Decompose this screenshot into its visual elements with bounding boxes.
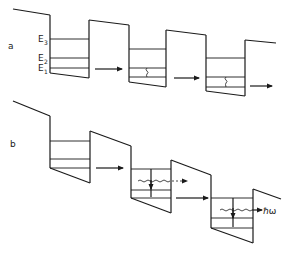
- well-bottom: [131, 198, 171, 213]
- well-bottom: [50, 73, 89, 78]
- barrier-top: [89, 20, 129, 25]
- well-bottom: [129, 82, 166, 87]
- well-bottom: [206, 91, 245, 96]
- e2-subscript: 2: [44, 58, 48, 65]
- part-b-diagram: b ℏω: [10, 101, 281, 243]
- well-bottom: [211, 228, 253, 243]
- barrier-top: [171, 160, 211, 175]
- relaxation-squiggle: [225, 77, 227, 87]
- relaxation-squiggle: [146, 68, 148, 77]
- photon-energy-label: ℏω: [263, 206, 276, 216]
- part-a-diagram: a: [8, 9, 276, 96]
- part-a-label: a: [8, 41, 14, 51]
- well-bottom: [50, 168, 90, 183]
- barrier-top: [253, 189, 281, 199]
- barrier-top: [166, 30, 206, 35]
- barrier-top: [90, 131, 131, 146]
- part-b-label: b: [10, 139, 16, 149]
- barrier-edge: [13, 101, 50, 116]
- band-diagram: a: [0, 0, 292, 258]
- barrier-top: [245, 40, 276, 43]
- photon-wave: [138, 180, 170, 182]
- e3-subscript: 3: [44, 39, 48, 46]
- e1-subscript: 1: [44, 68, 48, 75]
- barrier-edge: [13, 9, 50, 15]
- photon-wave: [220, 209, 252, 211]
